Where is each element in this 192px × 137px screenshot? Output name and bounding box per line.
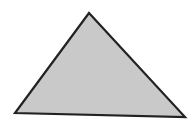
triangle-shape [15, 13, 185, 117]
diagram-canvas [0, 0, 192, 137]
